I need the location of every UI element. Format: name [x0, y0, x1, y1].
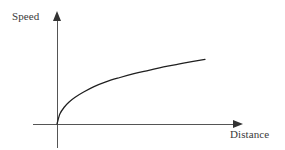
x-axis-arrowhead: [233, 120, 243, 128]
x-axis-label: Distance: [230, 128, 269, 140]
y-axis-label: Speed: [12, 10, 39, 22]
y-axis-arrowhead: [53, 11, 61, 21]
data-curve-speed-vs-distance: [57, 59, 205, 124]
chart-figure: Speed Distance: [0, 0, 285, 150]
